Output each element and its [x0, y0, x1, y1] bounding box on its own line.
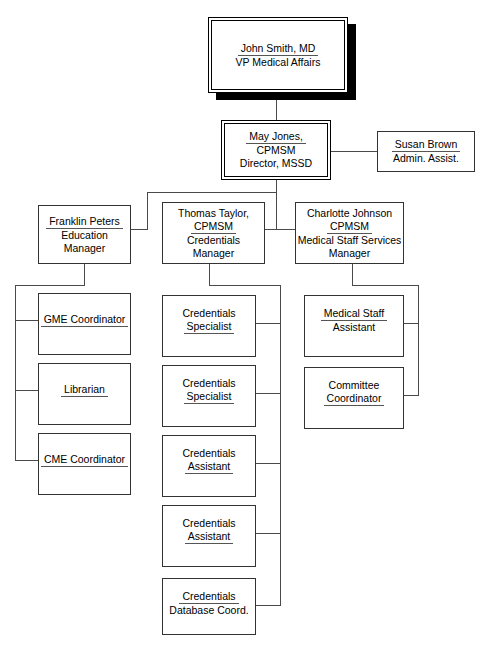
- connector-to-credentials-db-coord: [256, 605, 281, 606]
- mss-manager-title-2: Manager: [326, 247, 373, 260]
- education-manager-title-2: Manager: [61, 242, 108, 255]
- node-credentials-assistant-2[interactable]: Credentials Assistant: [162, 505, 256, 567]
- cme-coordinator-title: CME Coordinator: [41, 453, 128, 467]
- credentials-manager-name: Thomas Taylor,: [175, 207, 252, 220]
- node-director[interactable]: May Jones, CPMSM Director, MSSD: [221, 120, 331, 180]
- connector-manager-rail: [147, 192, 276, 193]
- node-education-manager[interactable]: Franklin Peters Education Manager: [38, 205, 131, 264]
- librarian-title: Librarian: [61, 383, 108, 397]
- node-assistant[interactable]: Susan Brown Admin. Assist.: [377, 131, 475, 172]
- node-librarian[interactable]: Librarian: [38, 363, 131, 425]
- connector-mss-column-spine: [418, 285, 419, 395]
- credentials-specialist-2-line-2: Specialist: [184, 390, 235, 404]
- education-manager-name: Franklin Peters: [46, 215, 123, 229]
- connector-education-stem: [84, 264, 85, 285]
- mss-manager-title-1: Medical Staff Services: [295, 234, 405, 247]
- connector-to-cme-coordinator: [15, 460, 39, 461]
- ceo-title: VP Medical Affairs: [233, 56, 324, 69]
- credentials-assistant-2-line-2: Assistant: [185, 530, 234, 544]
- director-name: May Jones,: [246, 130, 306, 144]
- director-title: Director, MSSD: [237, 157, 315, 170]
- node-credentials-assistant-1[interactable]: Credentials Assistant: [162, 435, 256, 497]
- mss-manager-credential: CPMSM: [327, 220, 372, 234]
- connector-to-education-manager: [131, 229, 148, 230]
- credentials-assistant-1-line-2: Assistant: [185, 460, 234, 474]
- gme-coordinator-title: GME Coordinator: [41, 313, 129, 327]
- credentials-manager-credential: CPMSM: [191, 220, 236, 234]
- connector-to-credentials-specialist-1: [256, 323, 281, 324]
- assistant-name: Susan Brown: [392, 138, 460, 152]
- mss-manager-name: Charlotte Johnson: [304, 207, 395, 220]
- credentials-assistant-1-line-1: Credentials: [179, 447, 238, 460]
- connector-mss-rail: [352, 285, 419, 286]
- connector-education-drop: [147, 192, 148, 229]
- connector-director-to-assistant: [331, 151, 377, 152]
- connector-education-column-spine: [15, 285, 16, 460]
- node-mss-manager[interactable]: Charlotte Johnson CPMSM Medical Staff Se…: [295, 202, 404, 264]
- credentials-manager-title-2: Manager: [190, 247, 237, 260]
- education-manager-title-1: Education: [58, 229, 111, 242]
- node-committee-coordinator[interactable]: Committee Coordinator: [304, 367, 404, 429]
- committee-coordinator-line-1: Committee: [326, 379, 383, 392]
- credentials-db-coord-line-1: Credentials: [179, 590, 238, 604]
- connector-to-mss-manager: [276, 229, 295, 230]
- director-credential: CPMSM: [253, 144, 298, 157]
- node-cme-coordinator[interactable]: CME Coordinator: [38, 433, 131, 495]
- connector-credentials-column-spine: [280, 285, 281, 605]
- connector-credentials-rail: [209, 285, 281, 286]
- connector-director-spine: [276, 180, 277, 229]
- credentials-db-coord-line-2: Database Coord.: [166, 604, 251, 617]
- medical-staff-assistant-line-2: Assistant: [330, 321, 379, 334]
- node-medical-staff-assistant[interactable]: Medical Staff Assistant: [304, 295, 404, 357]
- connector-to-credentials-assistant-2: [256, 533, 281, 534]
- org-chart: John Smith, MD VP Medical Affairs May Jo…: [0, 0, 483, 645]
- node-credentials-specialist-2[interactable]: Credentials Specialist: [162, 365, 256, 427]
- medical-staff-assistant-line-1: Medical Staff: [321, 307, 388, 321]
- credentials-manager-title-1: Credentials: [184, 234, 243, 247]
- node-credentials-specialist-1[interactable]: Credentials Specialist: [162, 295, 256, 357]
- connector-to-medical-staff-assistant: [404, 323, 419, 324]
- connector-education-rail: [15, 285, 85, 286]
- connector-to-credentials-specialist-2: [256, 393, 281, 394]
- connector-to-credentials-assistant-1: [256, 463, 281, 464]
- committee-coordinator-line-2: Coordinator: [324, 392, 385, 406]
- connector-to-committee-coordinator: [404, 395, 419, 396]
- connector-credentials-stem: [209, 264, 210, 285]
- assistant-title: Admin. Assist.: [390, 152, 462, 165]
- node-ceo[interactable]: John Smith, MD VP Medical Affairs: [208, 17, 348, 93]
- node-credentials-manager[interactable]: Thomas Taylor, CPMSM Credentials Manager: [162, 202, 265, 264]
- credentials-specialist-1-line-1: Credentials: [179, 307, 238, 320]
- credentials-specialist-1-line-2: Specialist: [184, 320, 235, 334]
- credentials-assistant-2-line-1: Credentials: [179, 517, 238, 530]
- ceo-name: John Smith, MD: [238, 42, 319, 56]
- credentials-specialist-2-line-1: Credentials: [179, 377, 238, 390]
- connector-to-gme-coordinator: [15, 320, 39, 321]
- connector-mss-stem: [352, 264, 353, 285]
- node-gme-coordinator[interactable]: GME Coordinator: [38, 293, 131, 355]
- node-credentials-db-coord[interactable]: Credentials Database Coord.: [162, 578, 256, 635]
- connector-to-librarian: [15, 390, 39, 391]
